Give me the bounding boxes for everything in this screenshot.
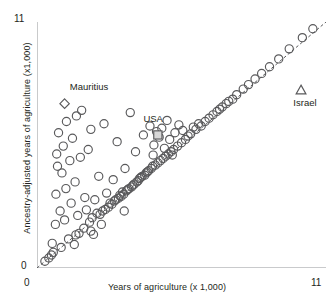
data-point	[149, 151, 157, 159]
data-point	[60, 216, 68, 224]
annotation-label-israel: Israel	[293, 97, 316, 108]
data-point	[91, 196, 99, 204]
data-point	[56, 207, 64, 215]
data-point	[258, 69, 266, 77]
data-point	[59, 142, 67, 150]
data-point	[100, 120, 108, 128]
data-point	[71, 178, 79, 186]
data-point	[95, 172, 103, 180]
data-point	[51, 220, 59, 228]
data-point-marker-square	[154, 131, 162, 139]
y-axis-title: Ancestry-adjusted years of agriculture (…	[22, 13, 32, 263]
data-point	[70, 240, 78, 248]
data-point	[175, 121, 183, 129]
data-point	[68, 134, 76, 142]
data-point	[54, 129, 62, 137]
data-point	[309, 25, 317, 33]
data-point	[67, 199, 75, 207]
data-point	[62, 117, 70, 125]
data-point	[171, 129, 179, 137]
data-point	[109, 176, 117, 184]
data-point	[57, 243, 65, 251]
x-axis-title: Years of agriculture (x 1,000)	[0, 282, 334, 292]
data-point	[82, 206, 90, 214]
data-point-marker-diamond	[60, 99, 69, 108]
data-point	[163, 116, 171, 124]
plot-canvas	[37, 22, 326, 268]
data-point	[120, 207, 128, 215]
annotation-label-mauritius: Mauritius	[70, 81, 109, 92]
data-point	[62, 185, 70, 193]
data-point	[76, 153, 84, 161]
data-point	[103, 189, 111, 197]
data-point	[48, 239, 56, 247]
data-point	[298, 34, 306, 42]
data-point	[97, 220, 105, 228]
annotation-label-usa: USA	[143, 113, 163, 124]
data-point	[113, 138, 121, 146]
data-point	[58, 169, 66, 177]
data-point	[150, 141, 158, 149]
data-point	[84, 145, 92, 153]
data-point	[285, 45, 293, 53]
data-point	[49, 248, 57, 256]
data-point-marker-triangle	[296, 85, 306, 94]
data-point	[78, 106, 86, 114]
data-point	[275, 55, 283, 63]
data-point	[121, 164, 129, 172]
data-point	[265, 63, 273, 71]
data-point	[131, 148, 139, 156]
data-point	[53, 150, 61, 158]
data-point	[139, 131, 147, 139]
scatter-plot-figure: 11 0 0 11 Years of agriculture (x 1,000)…	[0, 0, 334, 302]
plot-area: Mauritius USA Israel	[37, 22, 326, 268]
data-point	[126, 108, 134, 116]
data-point	[156, 157, 164, 165]
data-point	[87, 125, 95, 133]
data-point	[52, 190, 60, 198]
data-point	[74, 211, 82, 219]
data-point	[66, 157, 74, 165]
data-point	[81, 193, 89, 201]
